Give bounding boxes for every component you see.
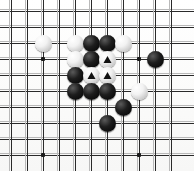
- black-stone-disc: [67, 67, 84, 84]
- triangle-marker-icon: [87, 72, 95, 79]
- white-stone[interactable]: [35, 35, 52, 52]
- black-stone-disc: [83, 51, 100, 68]
- black-stone[interactable]: [147, 51, 164, 68]
- black-stone[interactable]: [115, 99, 132, 116]
- white-stone-disc: [67, 51, 84, 68]
- white-stone-disc: [131, 83, 148, 100]
- black-stone[interactable]: [67, 83, 84, 100]
- black-stone[interactable]: [83, 35, 100, 52]
- black-stone[interactable]: [83, 83, 100, 100]
- black-stone-disc: [83, 35, 100, 52]
- black-stone[interactable]: [99, 83, 116, 100]
- black-stone-disc: [99, 35, 116, 52]
- white-stone-marked[interactable]: [83, 67, 100, 84]
- black-stone[interactable]: [99, 115, 116, 132]
- black-stone[interactable]: [67, 67, 84, 84]
- white-stone-disc: [115, 35, 132, 52]
- black-stone-disc: [147, 51, 164, 68]
- white-stone[interactable]: [67, 35, 84, 52]
- white-stone-marked[interactable]: [99, 51, 116, 68]
- white-stone-disc: [67, 35, 84, 52]
- black-stone[interactable]: [99, 35, 116, 52]
- white-stone-disc: [35, 35, 52, 52]
- white-stone-marked[interactable]: [99, 67, 116, 84]
- triangle-marker-icon: [103, 56, 111, 63]
- black-stone-disc: [115, 99, 132, 116]
- black-stone-disc: [99, 83, 116, 100]
- white-stone[interactable]: [67, 51, 84, 68]
- stones-layer: [0, 0, 194, 171]
- triangle-marker-icon: [103, 72, 111, 79]
- white-stone[interactable]: [115, 35, 132, 52]
- black-stone-disc: [99, 115, 116, 132]
- black-stone[interactable]: [83, 51, 100, 68]
- black-stone-disc: [67, 83, 84, 100]
- go-board-diagram: [0, 0, 194, 171]
- white-stone[interactable]: [131, 83, 148, 100]
- black-stone-disc: [83, 83, 100, 100]
